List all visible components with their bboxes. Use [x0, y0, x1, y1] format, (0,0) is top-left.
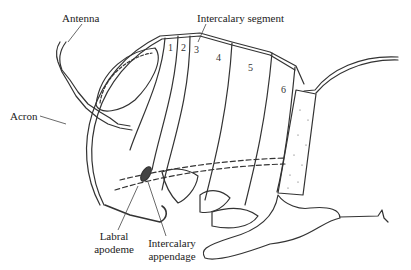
segment-number-5: 5: [248, 62, 253, 73]
segment-number-6: 6: [281, 84, 286, 95]
segment-number-1: 1: [168, 42, 173, 53]
diagram-canvas: Antenna Acron Intercalary segment Labral…: [0, 0, 411, 270]
segment-number-4: 4: [216, 52, 221, 63]
segment-number-2: 2: [181, 42, 186, 53]
leader-lines: [0, 0, 411, 270]
segment-number-3: 3: [194, 44, 199, 55]
